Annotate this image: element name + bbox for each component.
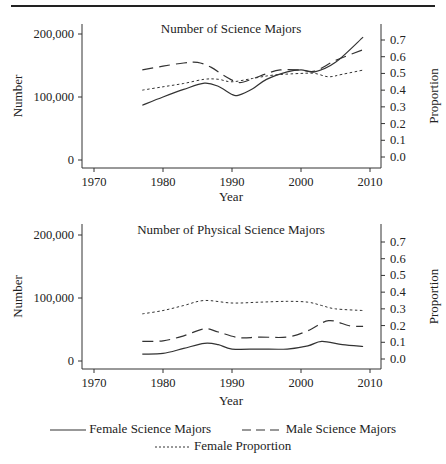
dashed-line-icon bbox=[242, 426, 282, 434]
legend-item-proportion: Female Proportion bbox=[155, 438, 291, 453]
legend: Female Science Majors Male Science Major… bbox=[0, 421, 446, 437]
y-tick-label: 100,000 bbox=[33, 90, 74, 104]
chart-title: Number of Science Majors bbox=[161, 21, 301, 36]
chart-title: Number of Physical Science Majors bbox=[137, 222, 325, 237]
y-right-tick-label: 0.0 bbox=[390, 352, 406, 366]
legend-label-male: Male Science Majors bbox=[286, 421, 396, 436]
y-right-axis-label: Proportion bbox=[426, 68, 441, 124]
y-tick-label: 200,000 bbox=[33, 228, 74, 242]
y-right-tick-label: 0.7 bbox=[390, 235, 406, 249]
y-right-tick-label: 0.0 bbox=[390, 150, 406, 164]
y-axis-label: Number bbox=[10, 275, 25, 318]
chart-panel-physical-science-majors: Number of Physical Science Majors0100,00… bbox=[10, 222, 441, 408]
legend-label-proportion: Female Proportion bbox=[194, 438, 291, 453]
chart-panel-science-majors: Number of Science Majors0100,000200,0000… bbox=[10, 21, 441, 204]
legend-label-female: Female Science Majors bbox=[89, 421, 211, 436]
x-tick-label: 2000 bbox=[289, 175, 314, 189]
legend-item-male: Male Science Majors bbox=[242, 421, 396, 436]
x-axis-label: Year bbox=[219, 393, 244, 408]
y-right-tick-label: 0.6 bbox=[390, 252, 406, 266]
y-axis-label: Number bbox=[10, 74, 25, 117]
y-right-tick-label: 0.2 bbox=[390, 319, 406, 333]
x-axis-label: Year bbox=[219, 189, 244, 204]
y-tick-label: 200,000 bbox=[33, 27, 74, 41]
y-right-tick-label: 0.1 bbox=[390, 335, 406, 349]
x-tick-label: 1980 bbox=[151, 175, 176, 189]
y-right-tick-label: 0.5 bbox=[390, 268, 406, 282]
y-right-tick-label: 0.3 bbox=[390, 100, 406, 114]
y-right-tick-label: 0.5 bbox=[390, 66, 406, 80]
x-tick-label: 2010 bbox=[358, 376, 383, 390]
figure: Number of Science Majors0100,000200,0000… bbox=[0, 0, 446, 464]
y-tick-label: 0 bbox=[68, 153, 74, 167]
legend-item-female: Female Science Majors bbox=[50, 421, 215, 436]
series-female-proportion bbox=[142, 300, 363, 313]
series-female-science-majors bbox=[142, 341, 363, 354]
legend-row-2: Female Proportion bbox=[0, 438, 446, 454]
y-right-tick-label: 0.4 bbox=[390, 285, 406, 299]
y-tick-label: 0 bbox=[68, 354, 74, 368]
y-right-axis-label: Proportion bbox=[426, 268, 441, 324]
series-female-proportion bbox=[142, 70, 363, 90]
series-female-science-majors bbox=[142, 37, 363, 105]
y-right-tick-label: 0.4 bbox=[390, 83, 406, 97]
y-right-tick-label: 0.2 bbox=[390, 117, 406, 131]
x-tick-label: 1990 bbox=[220, 376, 245, 390]
solid-line-icon bbox=[50, 426, 86, 434]
x-tick-label: 1970 bbox=[82, 175, 107, 189]
y-right-tick-label: 0.6 bbox=[390, 50, 406, 64]
x-tick-label: 1970 bbox=[82, 376, 107, 390]
y-right-tick-label: 0.7 bbox=[390, 33, 406, 47]
x-tick-label: 1980 bbox=[151, 376, 176, 390]
x-tick-label: 2010 bbox=[358, 175, 383, 189]
y-right-tick-label: 0.1 bbox=[390, 133, 406, 147]
x-tick-label: 1990 bbox=[220, 175, 245, 189]
series-male-science-majors bbox=[142, 321, 363, 342]
y-right-tick-label: 0.3 bbox=[390, 302, 406, 316]
y-tick-label: 100,000 bbox=[33, 291, 74, 305]
x-tick-label: 2000 bbox=[289, 376, 314, 390]
dotted-line-icon bbox=[155, 443, 191, 451]
